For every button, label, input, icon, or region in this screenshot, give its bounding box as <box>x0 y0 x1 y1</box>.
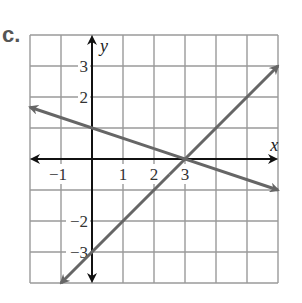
svg-text:3: 3 <box>80 57 89 76</box>
svg-text:−1: −1 <box>49 165 67 184</box>
svg-text:1: 1 <box>119 165 128 184</box>
x-axis-label: x <box>269 135 278 155</box>
y-axis-label: y <box>98 36 108 56</box>
svg-text:−2: −2 <box>70 212 88 231</box>
svg-text:3: 3 <box>181 165 190 184</box>
coordinate-graph: −112332−2−3 x y <box>0 0 302 303</box>
svg-text:2: 2 <box>150 165 159 184</box>
svg-text:2: 2 <box>80 88 89 107</box>
series-line-2 <box>61 66 278 283</box>
